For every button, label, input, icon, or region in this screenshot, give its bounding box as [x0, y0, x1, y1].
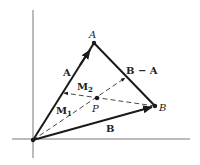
vector-triangle-diagram: A B P A B B − A M2 M1 [0, 0, 200, 165]
point-p [95, 96, 99, 100]
median-m2 [64, 93, 155, 106]
label-vector-b: B [106, 123, 114, 134]
label-vector-b-minus-a: B − A [126, 65, 158, 76]
label-m1: M1 [56, 105, 72, 118]
point-a [92, 41, 96, 45]
point-b [153, 104, 157, 108]
label-vector-a: A [62, 67, 71, 78]
vector-a-arrow [80, 50, 90, 65]
label-point-a: A [88, 29, 96, 40]
label-m2: M2 [77, 81, 93, 94]
label-point-b: B [158, 102, 166, 113]
label-point-p: P [91, 103, 99, 114]
point-origin [31, 138, 35, 142]
